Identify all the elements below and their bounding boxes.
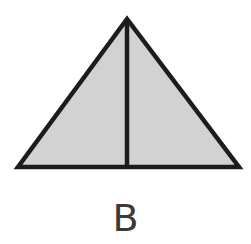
figure-label: B: [0, 196, 251, 240]
